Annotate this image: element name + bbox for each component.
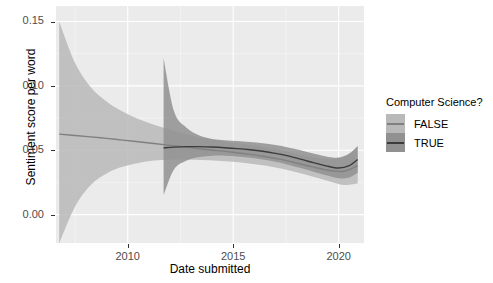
legend-item-true[interactable]: TRUE — [386, 133, 490, 152]
legend-key-swatch — [386, 114, 405, 133]
legend-title: Computer Science? — [386, 96, 490, 108]
chart-root: 0.150.100.050.00 201020152020 Sentiment … — [0, 0, 493, 283]
x-tick-label: 2015 — [203, 250, 263, 262]
y-tick-mark — [51, 150, 55, 151]
legend-item-label: FALSE — [414, 118, 448, 130]
y-tick-mark — [51, 22, 55, 23]
plot-svg — [56, 6, 364, 243]
legend-key-line — [387, 123, 404, 125]
x-tick-label: 2020 — [309, 250, 369, 262]
plot-panel — [56, 6, 364, 243]
legend-item-false[interactable]: FALSE — [386, 114, 490, 133]
x-tick-mark — [233, 244, 234, 248]
y-tick-mark — [51, 86, 55, 87]
y-tick-mark — [51, 215, 55, 216]
confidence-ribbons — [59, 21, 358, 243]
x-axis-title: Date submitted — [56, 262, 364, 276]
x-tick-mark — [128, 244, 129, 248]
legend: Computer Science? FALSETRUE — [386, 96, 490, 152]
legend-item-label: TRUE — [414, 137, 444, 149]
legend-key-line — [387, 142, 404, 144]
y-axis-title: Sentiment score per word — [24, 17, 38, 217]
legend-items: FALSETRUE — [386, 114, 490, 152]
legend-key-swatch — [386, 133, 405, 152]
x-tick-label: 2010 — [98, 250, 158, 262]
x-tick-mark — [339, 244, 340, 248]
